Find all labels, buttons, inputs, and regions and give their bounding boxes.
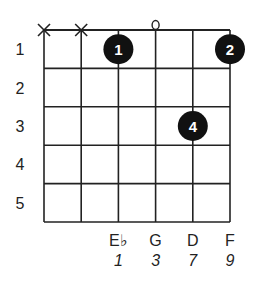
- fret-label: 3: [16, 118, 25, 135]
- open-string-icon: [152, 21, 159, 30]
- fret-label: 5: [16, 195, 25, 212]
- fret-label: 2: [16, 80, 25, 97]
- note-name: E♭: [109, 232, 128, 249]
- interval-label: 3: [151, 252, 160, 269]
- interval-label: 9: [226, 252, 235, 269]
- interval-label: 7: [188, 252, 198, 269]
- finger-number: 1: [114, 41, 122, 58]
- fret-label: 4: [16, 156, 25, 173]
- finger-number: 2: [226, 41, 234, 58]
- note-name: F: [225, 232, 235, 249]
- fret-label: 1: [16, 41, 25, 58]
- finger-number: 4: [189, 118, 198, 135]
- note-name: D: [187, 232, 199, 249]
- note-name: G: [149, 232, 161, 249]
- chord-diagram: 12345124E♭1G3D7F9: [0, 0, 260, 282]
- interval-label: 1: [114, 252, 123, 269]
